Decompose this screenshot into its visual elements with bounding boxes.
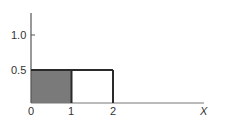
y-tick-label-0-5: 0.5 (11, 64, 26, 76)
chart: 1.0 0.5 0 1 2 X (0, 0, 226, 124)
unshaded-bar-1-2 (71, 70, 113, 103)
x-tick-label-1: 1 (68, 105, 74, 117)
x-tick-label-0: 0 (28, 105, 34, 117)
x-axis-title: X (199, 105, 208, 117)
x-tick-label-2: 2 (110, 105, 116, 117)
shaded-bar-0-1 (31, 70, 71, 103)
y-tick-label-1-0: 1.0 (11, 29, 26, 41)
